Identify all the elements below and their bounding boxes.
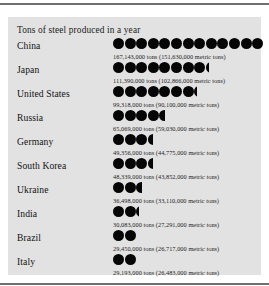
dot-symbol xyxy=(136,62,147,73)
row-value-text: 65,069,000 tons (59,030,000 metric tons) xyxy=(113,123,261,133)
pictograph-figure: Tons of steel produced in a year China16… xyxy=(0,3,269,286)
row-value-text: 48,339,000 tons (43,852,000 metric tons) xyxy=(113,171,261,181)
dot-symbol xyxy=(217,38,228,49)
dot-symbol xyxy=(113,158,124,169)
dot-symbol xyxy=(206,38,217,49)
dot-series xyxy=(113,206,261,219)
dot-series xyxy=(113,230,261,243)
dot-series xyxy=(113,254,261,267)
row-label-india: India xyxy=(17,207,37,220)
dot-symbol xyxy=(125,254,136,265)
partial-dot-symbol xyxy=(148,158,153,169)
row-value-text: 111,390,000 tons (102,866,000 metric ton… xyxy=(113,75,261,85)
row-value-text: 29,450,000 tons (26,717,000 metric tons) xyxy=(113,243,261,253)
dot-symbol xyxy=(125,86,136,97)
dot-symbol xyxy=(148,86,159,97)
dot-symbol xyxy=(136,110,147,121)
dot-symbol xyxy=(113,134,124,145)
dot-symbol xyxy=(113,110,124,121)
dot-symbol xyxy=(125,62,136,73)
row-value-text: 49,356,000 tons (44,775,000 metric tons) xyxy=(113,147,261,157)
row-label-germany: Germany xyxy=(17,135,53,148)
dot-symbol xyxy=(136,38,147,49)
chart-row: Japan111,390,000 tons (102,866,000 metri… xyxy=(8,63,261,87)
dot-symbol xyxy=(148,110,159,121)
row-graphic: 111,390,000 tons (102,866,000 metric ton… xyxy=(113,62,261,85)
row-graphic: 49,356,000 tons (44,775,000 metric tons) xyxy=(113,134,261,157)
dot-symbol xyxy=(194,62,205,73)
chart-row: Italy29,193,000 tons (26,483,000 metric … xyxy=(8,255,261,279)
dot-symbol xyxy=(113,230,124,241)
dot-symbol xyxy=(194,38,205,49)
chart-row: United States99,318,000 tons (90,100,000… xyxy=(8,87,261,111)
partial-dot-symbol xyxy=(136,182,142,193)
row-graphic: 65,069,000 tons (59,030,000 metric tons) xyxy=(113,110,261,133)
row-graphic: 29,193,000 tons (26,483,000 metric tons) xyxy=(113,254,261,277)
partial-dot-symbol xyxy=(206,62,209,73)
dot-symbol xyxy=(125,134,136,145)
dot-symbol xyxy=(171,38,182,49)
row-value-text: 36,498,000 tons (33,110,000 metric tons) xyxy=(113,195,261,205)
row-graphic: 99,318,000 tons (90,100,000 metric tons) xyxy=(113,86,261,109)
dot-symbol xyxy=(125,158,136,169)
dot-symbol xyxy=(113,86,124,97)
dot-symbol xyxy=(125,38,136,49)
dot-series xyxy=(113,182,261,195)
dot-symbol xyxy=(136,134,147,145)
dot-symbol xyxy=(113,62,124,73)
row-label-china: China xyxy=(17,39,40,52)
dot-symbol xyxy=(125,110,136,121)
dot-symbol xyxy=(183,38,194,49)
dot-symbol xyxy=(113,206,124,217)
dot-symbol xyxy=(125,206,136,217)
row-label-ukraine: Ukraine xyxy=(17,183,49,196)
chart-title: Tons of steel produced in a year xyxy=(8,24,261,36)
dot-symbol xyxy=(113,182,124,193)
dot-symbol xyxy=(125,182,136,193)
chart-row: South Korea48,339,000 tons (43,852,000 m… xyxy=(8,159,261,183)
dot-series xyxy=(113,38,261,51)
dot-series xyxy=(113,62,261,75)
row-label-brazil: Brazil xyxy=(17,231,41,244)
row-graphic: 29,450,000 tons (26,717,000 metric tons) xyxy=(113,230,261,253)
dot-symbol xyxy=(183,86,194,97)
partial-dot-symbol xyxy=(148,134,153,145)
row-value-text: 29,193,000 tons (26,483,000 metric tons) xyxy=(113,267,261,277)
chart-row: China167,143,000 tons (151,630,000 metri… xyxy=(8,39,261,63)
dot-symbol xyxy=(241,38,252,49)
row-graphic: 167,143,000 tons (151,630,000 metric ton… xyxy=(113,38,261,61)
dot-symbol xyxy=(148,62,159,73)
dot-symbol xyxy=(136,86,147,97)
row-graphic: 48,339,000 tons (43,852,000 metric tons) xyxy=(113,158,261,181)
chart-panel: Tons of steel produced in a year China16… xyxy=(8,17,261,275)
chart-row: Germany49,356,000 tons (44,775,000 metri… xyxy=(8,135,261,159)
dot-symbol xyxy=(159,38,170,49)
partial-dot-symbol xyxy=(136,206,139,217)
dot-symbol xyxy=(159,62,170,73)
row-label-japan: Japan xyxy=(17,63,39,76)
dot-series xyxy=(113,158,261,171)
row-label-south-korea: South Korea xyxy=(17,159,66,172)
row-graphic: 30,083,000 tons (27,291,000 metric tons) xyxy=(113,206,261,229)
row-value-text: 30,083,000 tons (27,291,000 metric tons) xyxy=(113,219,261,229)
bottom-divider-rule xyxy=(0,283,269,285)
row-graphic: 36,498,000 tons (33,110,000 metric tons) xyxy=(113,182,261,205)
partial-dot-symbol xyxy=(194,86,197,97)
dot-symbol xyxy=(183,62,194,73)
chart-row: Ukraine36,498,000 tons (33,110,000 metri… xyxy=(8,183,261,207)
dot-symbol xyxy=(229,38,240,49)
dot-symbol xyxy=(252,38,263,49)
top-divider-rule xyxy=(0,3,269,5)
dot-symbol xyxy=(171,86,182,97)
dot-series xyxy=(113,86,261,99)
dot-symbol xyxy=(148,38,159,49)
row-label-united-states: United States xyxy=(17,87,70,100)
dot-symbol xyxy=(159,86,170,97)
dot-symbol xyxy=(113,38,124,49)
row-value-text: 99,318,000 tons (90,100,000 metric tons) xyxy=(113,99,261,109)
partial-dot-symbol xyxy=(159,110,165,121)
chart-row: India30,083,000 tons (27,291,000 metric … xyxy=(8,207,261,231)
dot-symbol xyxy=(171,62,182,73)
chart-row: Russia65,069,000 tons (59,030,000 metric… xyxy=(8,111,261,135)
chart-rows: China167,143,000 tons (151,630,000 metri… xyxy=(8,39,261,279)
